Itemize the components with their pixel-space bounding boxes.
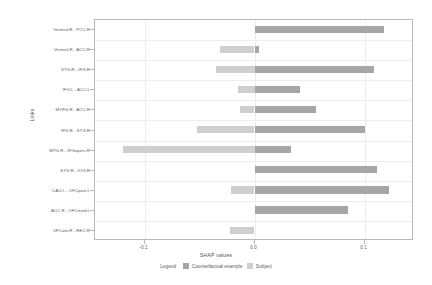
y-axis-tick-mark xyxy=(90,230,94,231)
x-axis-tick-label: 0.0 xyxy=(250,245,256,250)
y-axis-tick-label: IFG.R - STG.R xyxy=(61,127,90,132)
x-axis-tick-label: -0.1 xyxy=(140,245,148,250)
bar-segment-counterfactual xyxy=(255,186,389,193)
legend-label: Subject xyxy=(256,264,272,269)
x-axis-label: SHAP values xyxy=(0,252,432,258)
bar-row xyxy=(95,120,412,138)
y-axis-tick-label: MVFG.R - ACC.R xyxy=(56,107,90,112)
legend-swatch xyxy=(183,263,189,269)
y-axis-tick-mark xyxy=(90,49,94,50)
bar-segment-subject xyxy=(231,186,254,193)
chart-legend: Legend Counterfactual exampleSubject xyxy=(0,263,432,269)
bar-row xyxy=(95,100,412,118)
bar-segment-counterfactual xyxy=(255,166,377,173)
x-axis-tick-mark xyxy=(254,240,255,244)
legend-title: Legend xyxy=(160,264,176,269)
y-axis-tick-label: MTG.R - IFGoperc.R xyxy=(49,147,90,152)
y-axis-tick-label: VermisLR - PCC.R xyxy=(53,27,90,32)
bar-segment-subject xyxy=(123,146,255,153)
bar-row xyxy=(95,221,412,239)
legend-swatch xyxy=(247,263,253,269)
y-axis-tick-label: CAU.L - OFCpost.L xyxy=(52,187,90,192)
bar-row xyxy=(95,20,412,38)
shap-bar-chart: Links VermisLR - PCC.RVermisLR - ACC.RST… xyxy=(0,0,432,285)
legend-entry: Counterfactual example xyxy=(183,263,242,269)
plot-area xyxy=(94,19,413,240)
bar-row xyxy=(95,80,412,98)
bar-segment-counterfactual xyxy=(255,26,385,33)
bar-row xyxy=(95,181,412,199)
bar-segment-subject xyxy=(240,106,254,113)
bar-row xyxy=(95,40,412,58)
y-axis-tick-mark xyxy=(90,89,94,90)
bar-row xyxy=(95,60,412,78)
y-axis-tick-label: IFG.L - ACC.L xyxy=(63,87,90,92)
y-axis-tick-mark xyxy=(90,190,94,191)
x-axis-tick-label: 0.1 xyxy=(360,245,366,250)
y-axis-tick-mark xyxy=(90,29,94,30)
bar-segment-counterfactual xyxy=(255,126,365,133)
y-axis-tick-mark xyxy=(90,150,94,151)
y-axis-tick-label: STG.R - IOG.R xyxy=(60,167,90,172)
y-axis-tick-mark xyxy=(90,109,94,110)
bar-segment-counterfactual xyxy=(255,46,259,53)
bar-segment-counterfactual xyxy=(255,86,300,93)
bar-segment-subject xyxy=(216,66,255,73)
y-axis-tick-label: ACC.R - OFCmed.L xyxy=(51,207,90,212)
bar-segment-subject xyxy=(230,227,254,234)
bar-row xyxy=(95,141,412,159)
bar-segment-counterfactual xyxy=(255,206,349,213)
y-axis-label: Links xyxy=(29,85,35,145)
y-axis-tick-mark xyxy=(90,69,94,70)
y-axis-tick-mark xyxy=(90,170,94,171)
bar-segment-subject xyxy=(220,46,254,53)
y-axis-tick-mark xyxy=(90,210,94,211)
y-axis-tick-label: VermisLR - ACC.R xyxy=(54,47,90,52)
bar-segment-subject xyxy=(238,86,255,93)
legend-entry: Subject xyxy=(247,263,272,269)
bar-row xyxy=(95,161,412,179)
bar-segment-counterfactual xyxy=(255,66,375,73)
y-axis-tick-label: STG.R - IFG.R xyxy=(61,67,90,72)
y-axis-tick-mark xyxy=(90,130,94,131)
x-axis-tick-mark xyxy=(144,240,145,244)
bar-row xyxy=(95,201,412,219)
bar-segment-counterfactual xyxy=(255,146,291,153)
x-axis-tick-mark xyxy=(364,240,365,244)
bar-segment-counterfactual xyxy=(255,106,317,113)
legend-label: Counterfactual example xyxy=(192,264,243,269)
y-axis-tick-label: OFCant.R - REC.R xyxy=(53,227,90,232)
bar-segment-subject xyxy=(197,126,254,133)
